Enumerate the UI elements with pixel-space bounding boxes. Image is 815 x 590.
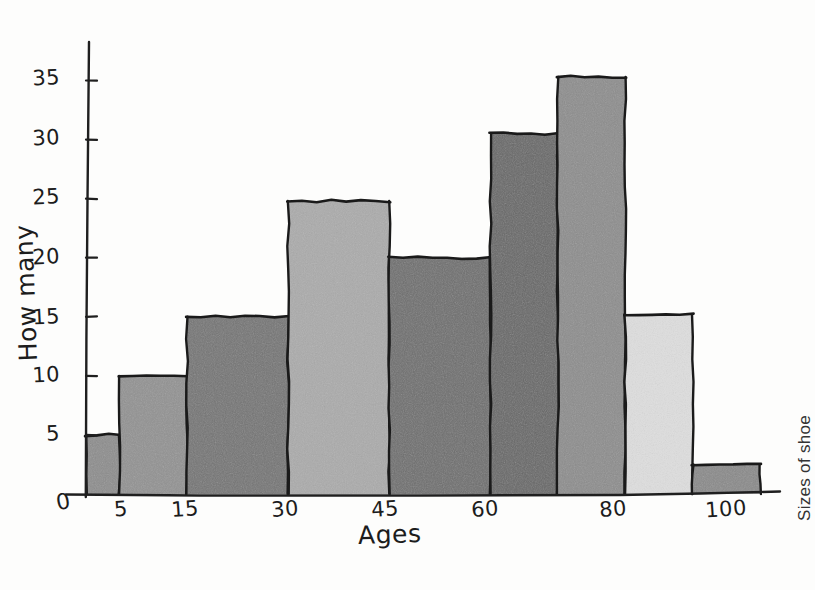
x-tick-label: 30	[266, 496, 304, 522]
x-tick-label: 5	[102, 496, 140, 522]
bar-fill	[187, 317, 288, 494]
bar-fill	[288, 201, 389, 494]
bar-outline	[624, 314, 693, 316]
y-tick-label: 30	[21, 125, 60, 151]
bar-fill	[389, 258, 490, 494]
right-axis-title: Sizes of shoe	[795, 415, 815, 521]
bar-outline	[186, 316, 289, 318]
x-tick-label: 45	[366, 496, 404, 522]
y-tick-mark	[86, 199, 97, 200]
bar-70-80[interactable]	[557, 76, 626, 494]
bar-outline	[287, 200, 390, 202]
x-tick-label: 100	[701, 495, 751, 522]
bar-fill	[490, 134, 557, 494]
bar-fill	[558, 77, 625, 494]
x-tick-label: 60	[466, 496, 504, 522]
x-tick-label: 15	[166, 496, 204, 522]
bar-fill	[86, 435, 120, 494]
bar-80-90[interactable]	[624, 314, 693, 494]
bar-45-60[interactable]	[388, 257, 491, 494]
chart-page: 35 30 25 20 15 10 5 0 5 15 30 45 60 80 1…	[0, 0, 815, 590]
bar-outline	[119, 376, 120, 494]
hand-drawn-bar-chart: 35 30 25 20 15 10 5 0 5 15 30 45 60 80 1…	[0, 0, 815, 590]
bar-outline	[119, 376, 188, 377]
y-tick-label: 10	[21, 362, 60, 388]
y-tick-label: 5	[21, 421, 60, 447]
bar-outline	[760, 465, 761, 495]
bar-90-100[interactable]	[692, 464, 761, 494]
y-axis-title: How many	[9, 224, 43, 362]
bar-outline	[692, 464, 761, 465]
y-tick-mark	[86, 316, 97, 317]
bar-fill	[625, 314, 692, 494]
y-tick-label: 25	[21, 184, 60, 210]
bar-60-70[interactable]	[489, 133, 558, 495]
axis-line	[86, 42, 89, 497]
bar-30-45[interactable]	[287, 200, 390, 494]
x-tick-label: 80	[594, 496, 632, 522]
bar-5-15[interactable]	[119, 376, 188, 495]
y-tick-label: 35	[21, 65, 60, 91]
bar-0-5[interactable]	[85, 434, 121, 494]
bar-outline	[388, 257, 491, 259]
bars-group	[85, 76, 761, 494]
x-axis-title: Ages	[358, 519, 422, 550]
bar-fill	[120, 376, 187, 494]
bar-fill	[693, 464, 760, 494]
bar-15-30[interactable]	[186, 316, 289, 494]
bar-outline	[389, 258, 390, 494]
